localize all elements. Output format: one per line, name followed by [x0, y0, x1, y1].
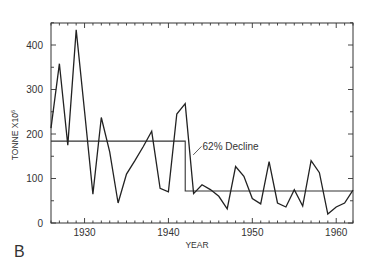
decline-annotation: 62% Decline	[203, 141, 260, 152]
svg-text:400: 400	[26, 40, 43, 51]
annotation-leader-line	[193, 146, 201, 155]
panel-label: B	[14, 243, 25, 261]
svg-text:0: 0	[37, 218, 43, 229]
line-chart: 19301940195019600100200300400 62% Declin…	[0, 0, 373, 267]
axis-ticks: 19301940195019600100200300400	[26, 23, 353, 238]
svg-text:1940: 1940	[157, 227, 180, 238]
svg-text:300: 300	[26, 84, 43, 95]
svg-text:1950: 1950	[241, 227, 264, 238]
x-axis-label: YEAR	[185, 240, 208, 250]
y-axis-label: TONNE X106	[10, 109, 20, 160]
svg-text:200: 200	[26, 129, 43, 140]
catch-series-line	[51, 30, 353, 214]
svg-text:100: 100	[26, 173, 43, 184]
svg-text:1930: 1930	[73, 227, 96, 238]
svg-text:1960: 1960	[325, 227, 348, 238]
plot-frame	[51, 23, 353, 223]
